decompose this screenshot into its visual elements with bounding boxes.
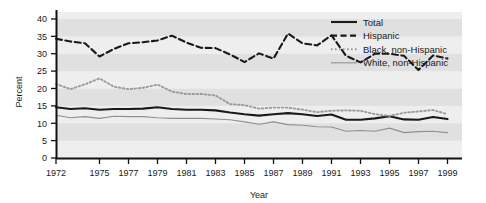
x-tick-label: 1999 bbox=[437, 168, 457, 178]
x-tick-label: 1979 bbox=[147, 168, 167, 178]
y-tick-label: 10 bbox=[37, 119, 47, 129]
x-tick-label: 1983 bbox=[205, 168, 225, 178]
y-tick-label: 20 bbox=[37, 84, 47, 94]
line-chart: 0510152025303540 19721975197719791981198… bbox=[0, 0, 486, 203]
x-tick-label: 1989 bbox=[292, 168, 312, 178]
legend-label: Black, non-Hispanic bbox=[363, 44, 447, 55]
x-tick-label: 1995 bbox=[379, 168, 399, 178]
legend-label: Hispanic bbox=[363, 30, 400, 41]
x-tick-label: 1975 bbox=[89, 168, 109, 178]
legend-label: White, non-Hispanic bbox=[363, 57, 448, 68]
y-tick-label: 5 bbox=[42, 136, 47, 146]
y-axis-label: Percent bbox=[14, 76, 24, 108]
x-tick-label: 1997 bbox=[408, 168, 428, 178]
x-tick-label: 1981 bbox=[176, 168, 196, 178]
x-tick-label: 1985 bbox=[234, 168, 254, 178]
background-band bbox=[56, 141, 462, 158]
background-band bbox=[56, 71, 462, 88]
y-tick-label: 0 bbox=[42, 153, 47, 163]
plot-background bbox=[56, 12, 462, 158]
x-tick-label: 1977 bbox=[118, 168, 138, 178]
x-axis-label: Year bbox=[250, 190, 268, 200]
y-tick-label: 30 bbox=[37, 49, 47, 59]
y-tick-label: 40 bbox=[37, 14, 47, 24]
x-tick-label: 1987 bbox=[263, 168, 283, 178]
y-tick-label: 25 bbox=[37, 66, 47, 76]
legend-label: Total bbox=[363, 17, 383, 28]
x-axis-ticks: 1972197519771979198119831985198719891991… bbox=[46, 158, 458, 178]
background-band bbox=[56, 19, 462, 36]
y-axis-ticks: 0510152025303540 bbox=[37, 14, 57, 163]
y-tick-label: 15 bbox=[37, 101, 47, 111]
x-tick-label: 1972 bbox=[46, 168, 66, 178]
background-band bbox=[56, 88, 462, 105]
y-tick-label: 35 bbox=[37, 32, 47, 42]
x-tick-label: 1993 bbox=[350, 168, 370, 178]
x-tick-label: 1991 bbox=[321, 168, 341, 178]
background-band bbox=[56, 12, 462, 19]
